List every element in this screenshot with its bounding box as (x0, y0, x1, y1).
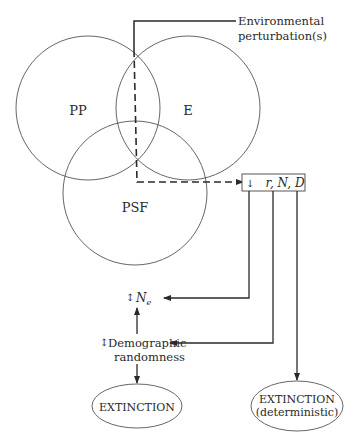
perturbation-line (134, 21, 236, 50)
demographic-arrow: ↕ (100, 337, 108, 348)
extinction-deterministic-label-2: (deterministic) (256, 406, 339, 419)
label-psf: PSF (122, 200, 149, 215)
demographic-label-1: Demographic (108, 336, 186, 350)
rnd-down-arrow: ↓ (246, 178, 254, 189)
label-pp: PP (69, 103, 87, 118)
line-to-ne (164, 191, 249, 298)
ne-label: Ne (135, 291, 152, 307)
extinction-label: EXTINCTION (99, 401, 175, 414)
demographic-label-2: randomness (114, 350, 185, 364)
label-e: E (183, 103, 193, 118)
ne-arrow: ↕ (126, 292, 134, 303)
perturbation-label-2: perturbation(s) (238, 29, 327, 43)
circle-psf (63, 121, 207, 265)
circle-pp (16, 36, 160, 180)
perturbation-label-1: Environmental (238, 14, 324, 28)
line-to-demographic (170, 191, 273, 343)
rnd-label: r, N, D (265, 176, 304, 190)
extinction-deterministic-label-1: EXTINCTION (259, 393, 335, 406)
diagram-canvas: PP E PSF Environmental perturbation(s) ↓… (0, 0, 357, 441)
